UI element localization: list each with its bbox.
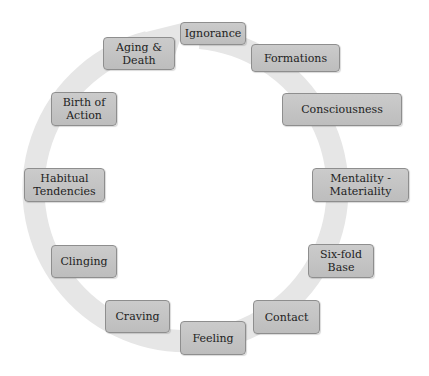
node-label: Ignorance [185,27,242,40]
node-label: Contact [265,311,309,324]
node-label: Birth of Action [59,96,109,122]
node-clinging: Clinging [51,245,117,278]
node-label: Mentality - Materiality [326,172,396,198]
node-feeling: Feeling [180,321,246,355]
node-consciousness: Consciousness [282,93,402,126]
node-label: Formations [264,52,327,65]
node-ignorance: Ignorance [180,22,246,45]
node-aging-death: Aging & Death [103,37,175,70]
node-label: Craving [115,310,159,323]
node-label: Six-fold Base [316,248,366,274]
node-label: Feeling [192,332,233,345]
node-label: Aging & Death [114,41,164,67]
node-craving: Craving [105,300,170,333]
node-birth-of-action: Birth of Action [51,92,117,126]
node-formations: Formations [251,44,340,72]
node-label: Clinging [60,255,107,268]
node-mentality-materiality: Mentality - Materiality [312,168,409,202]
node-six-fold-base: Six-fold Base [308,244,374,278]
node-label: Consciousness [301,103,383,116]
node-label: Habitual Tendencies [27,172,102,198]
node-contact: Contact [253,300,320,334]
node-habitual-tendencies: Habitual Tendencies [24,168,105,202]
